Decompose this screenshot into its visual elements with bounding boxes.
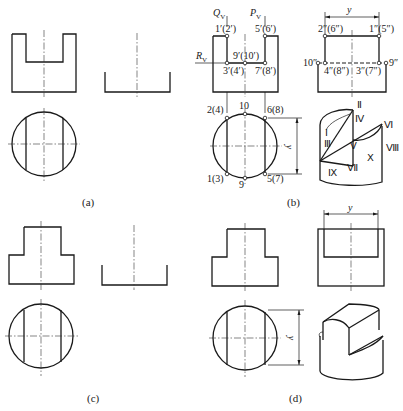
point-label: 2″(6″)	[318, 24, 343, 34]
point-label: 1(3)	[207, 174, 224, 184]
face-label: Ⅳ	[355, 114, 364, 124]
point-label: 5′(6′)	[255, 24, 276, 34]
face-label: Ⅰ	[325, 128, 328, 138]
dimension-y-label: y	[347, 5, 351, 15]
point-label: 10″	[303, 58, 317, 68]
panel-c-front-view	[9, 221, 74, 290]
point-label: 9′(10′)	[233, 51, 259, 61]
panel-a-top-view	[8, 108, 80, 182]
plane-label-r: RV	[196, 51, 207, 65]
dimension-y-label: y	[286, 336, 296, 340]
face-label: Ⅶ	[347, 163, 358, 173]
panel-c-top-view	[5, 299, 78, 376]
panel-d-isometric	[319, 304, 383, 380]
point-label: 1′(2′)	[215, 24, 236, 34]
panel-a-front-view	[12, 30, 76, 97]
point-label: 7′(8′)	[255, 66, 276, 76]
point-label: 3″(7″)	[356, 66, 381, 76]
point-label: 5(7)	[267, 174, 284, 184]
caption-b: (b)	[287, 197, 300, 208]
caption-c: (c)	[87, 393, 99, 404]
face-label: Ⅹ	[367, 153, 374, 163]
point-label: 1″(5″)	[369, 24, 394, 34]
point-label: 3′(4′)	[223, 66, 244, 76]
face-label: Ⅵ	[384, 120, 393, 130]
point-label: 4″(8″)	[324, 66, 349, 76]
point-label: 10	[239, 101, 249, 111]
point-label: 2(4)	[207, 105, 224, 115]
face-label: Ⅷ	[386, 143, 399, 153]
face-label: Ⅴ	[350, 141, 357, 151]
face-label: Ⅲ	[324, 139, 331, 149]
caption-a: (a)	[82, 197, 94, 208]
caption-d: (d)	[289, 393, 302, 404]
point-label: 9	[239, 180, 244, 190]
point-label: 9″	[389, 58, 398, 68]
face-label: Ⅱ	[357, 100, 362, 110]
face-label: Ⅸ	[328, 168, 337, 178]
panel-d-front-view	[212, 223, 278, 291]
panel-a-side-view	[105, 33, 170, 97]
dimension-y-label: y	[348, 203, 352, 213]
point-label: 6(8)	[267, 105, 284, 115]
panel-d-side-view	[318, 210, 384, 291]
dimension-y-label: y	[284, 145, 294, 149]
plane-label-q: QV	[213, 8, 225, 22]
panel-c-side-view	[102, 225, 167, 290]
plane-label-p: PV	[250, 8, 261, 22]
